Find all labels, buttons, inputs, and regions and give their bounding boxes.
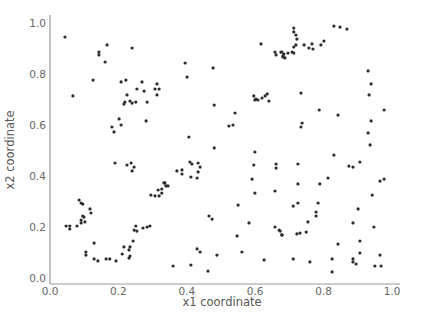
data-point xyxy=(197,170,200,173)
data-point xyxy=(133,166,136,169)
data-point xyxy=(135,87,138,90)
data-point xyxy=(227,124,230,127)
data-point xyxy=(383,178,386,181)
data-point xyxy=(125,163,128,166)
data-point xyxy=(189,175,192,178)
data-point xyxy=(301,121,304,124)
data-point xyxy=(273,189,276,192)
data-point xyxy=(106,43,109,46)
data-point xyxy=(133,229,136,232)
data-point xyxy=(280,51,283,54)
data-point xyxy=(292,45,295,48)
data-point xyxy=(280,233,283,236)
data-point xyxy=(292,27,295,30)
data-point xyxy=(132,239,135,242)
data-point xyxy=(357,207,360,210)
data-point xyxy=(97,51,100,54)
data-point xyxy=(315,210,318,213)
data-point xyxy=(358,239,361,242)
data-point xyxy=(160,192,163,195)
data-point xyxy=(231,123,234,126)
data-point xyxy=(292,257,295,260)
data-point xyxy=(155,93,158,96)
y-tick-label: 0.6 xyxy=(29,119,46,131)
data-point xyxy=(81,203,84,206)
data-point xyxy=(263,258,266,261)
data-point xyxy=(279,230,282,233)
data-point xyxy=(295,38,298,41)
data-point xyxy=(332,25,335,28)
data-point xyxy=(197,161,200,164)
data-point xyxy=(114,259,117,262)
data-point xyxy=(97,53,100,56)
data-point xyxy=(146,101,149,104)
data-point xyxy=(310,42,313,45)
data-point xyxy=(187,135,190,138)
data-point xyxy=(294,33,297,36)
data-point xyxy=(296,201,299,204)
data-point xyxy=(199,166,202,169)
x-tick-label: 1.0 xyxy=(384,285,401,297)
data-point xyxy=(75,224,78,227)
data-point xyxy=(260,96,263,99)
x-tick-label: 0.0 xyxy=(42,285,59,297)
data-point xyxy=(372,225,375,228)
data-point xyxy=(355,262,358,265)
data-point xyxy=(131,169,134,172)
data-point xyxy=(88,207,91,210)
data-points xyxy=(63,25,385,274)
data-point xyxy=(163,181,166,184)
data-point xyxy=(322,40,325,43)
data-point xyxy=(145,119,148,122)
data-point xyxy=(351,257,354,260)
data-point xyxy=(120,80,123,83)
data-point xyxy=(369,143,372,146)
data-point xyxy=(125,93,128,96)
x-tick-label: 0.8 xyxy=(315,285,332,297)
data-point xyxy=(120,123,123,126)
data-point xyxy=(311,47,314,50)
data-point xyxy=(149,194,152,197)
data-point xyxy=(63,35,66,38)
data-point xyxy=(212,66,215,69)
data-point xyxy=(298,232,301,235)
data-point xyxy=(275,167,278,170)
data-point xyxy=(273,51,276,54)
data-point xyxy=(157,188,160,191)
data-point xyxy=(211,218,214,221)
data-point xyxy=(89,211,92,214)
data-point xyxy=(256,98,259,101)
data-point xyxy=(336,243,339,246)
data-point xyxy=(160,187,163,190)
data-point xyxy=(253,98,256,101)
data-point xyxy=(213,146,216,149)
data-point xyxy=(113,161,116,164)
data-point xyxy=(134,224,137,227)
data-point xyxy=(371,194,374,197)
data-point xyxy=(267,99,270,102)
data-point xyxy=(153,194,156,197)
y-tick-label: 0.4 xyxy=(29,170,46,182)
data-point xyxy=(196,247,199,250)
data-point xyxy=(143,90,146,93)
data-point xyxy=(78,198,81,201)
data-point xyxy=(71,94,74,97)
data-point xyxy=(130,161,133,164)
data-point xyxy=(134,101,137,104)
data-point xyxy=(286,52,289,55)
data-point xyxy=(127,248,130,251)
data-point xyxy=(383,108,386,111)
data-point xyxy=(351,166,354,169)
data-point xyxy=(84,254,87,257)
y-tick-labels: 0.00.20.40.60.81.0 xyxy=(29,17,46,284)
data-point xyxy=(275,162,278,165)
data-point xyxy=(175,169,178,172)
data-point xyxy=(124,79,127,82)
data-point xyxy=(370,119,373,122)
data-point xyxy=(215,254,218,257)
data-point xyxy=(283,56,286,59)
x-tick-label: 0.2 xyxy=(110,285,127,297)
data-point xyxy=(292,30,295,33)
data-point xyxy=(122,103,125,106)
data-point xyxy=(253,192,256,195)
